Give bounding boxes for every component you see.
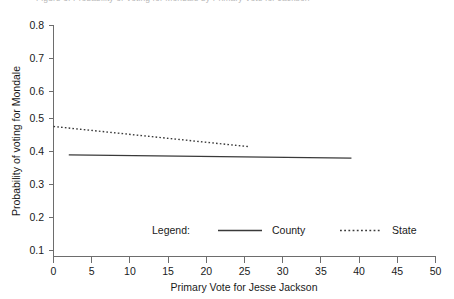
y-tick-label: 0.5 — [29, 112, 44, 124]
legend-label-county: County — [272, 224, 306, 236]
y-tick-label: 0.6 — [29, 85, 44, 97]
chart-legend: Legend: County State — [152, 224, 417, 236]
x-tick-label: 35 — [315, 265, 327, 277]
y-tick-label: 0.4 — [29, 145, 44, 157]
line-chart: 0.8 0.7 0.6 0.5 0.4 0.3 0.2 0.1 Probabil… — [0, 0, 454, 299]
x-tick-label: 45 — [391, 265, 403, 277]
legend-label-state: State — [392, 224, 417, 236]
y-axis-ticks — [49, 26, 54, 251]
y-tick-label: 0.7 — [29, 52, 44, 64]
y-tick-label: 0.3 — [29, 178, 44, 190]
x-tick-label: 20 — [200, 265, 212, 277]
x-tick-label: 15 — [162, 265, 174, 277]
x-tick-label: 10 — [124, 265, 136, 277]
figure-root: Figure 3: Probability of Voting for Mond… — [0, 0, 454, 299]
y-tick-label: 0.8 — [29, 19, 44, 31]
y-axis-tick-labels: 0.8 0.7 0.6 0.5 0.4 0.3 0.2 0.1 — [29, 19, 44, 256]
x-axis-tick-labels: 0 5 10 15 20 25 30 35 40 45 50 — [51, 265, 442, 277]
x-tick-label: 50 — [430, 265, 442, 277]
x-tick-label: 0 — [51, 265, 57, 277]
x-tick-label: 30 — [277, 265, 289, 277]
x-axis-title: Primary Vote for Jesse Jackson — [170, 281, 317, 293]
series-line-county — [69, 155, 352, 158]
legend-title: Legend: — [152, 224, 190, 236]
y-axis-title: Probability of voting for Mondale — [10, 66, 22, 216]
x-tick-label: 5 — [89, 265, 95, 277]
x-tick-label: 40 — [353, 265, 365, 277]
series-line-state — [54, 126, 249, 146]
y-tick-label: 0.1 — [29, 244, 44, 256]
x-axis-ticks — [54, 257, 436, 263]
x-tick-label: 25 — [239, 265, 251, 277]
y-tick-label: 0.2 — [29, 211, 44, 223]
